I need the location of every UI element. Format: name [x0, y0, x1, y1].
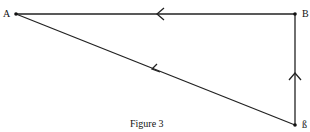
point-a [14, 12, 18, 16]
triangle-diagram [0, 0, 310, 132]
point-b [293, 12, 297, 16]
figure-caption: Figure 3 [130, 119, 164, 129]
label-a: A [3, 9, 10, 19]
point-c [293, 123, 297, 127]
label-b: B [302, 9, 309, 19]
label-c: ß [302, 120, 307, 130]
edge-c-to-a [16, 14, 295, 125]
